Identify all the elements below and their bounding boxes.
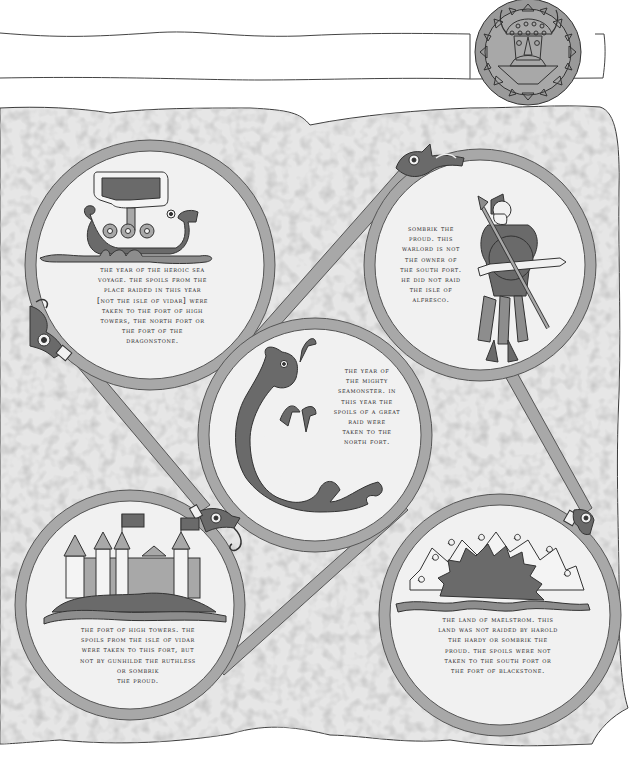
- clue-text-seamonster: the year of the mighty seamonster. in th…: [312, 366, 422, 448]
- clue-text-warrior: sombrik the proud. this warlord is not t…: [378, 224, 484, 306]
- clue-text-sun: the land of maelstrom. this land was not…: [398, 615, 598, 676]
- viking-helmet-face-medallion: [475, 0, 581, 105]
- clue-text-castle: the fort of high towers. the spoils from…: [48, 625, 228, 686]
- clue-text-ship: the year of the heroic sea voyage. the s…: [40, 265, 265, 347]
